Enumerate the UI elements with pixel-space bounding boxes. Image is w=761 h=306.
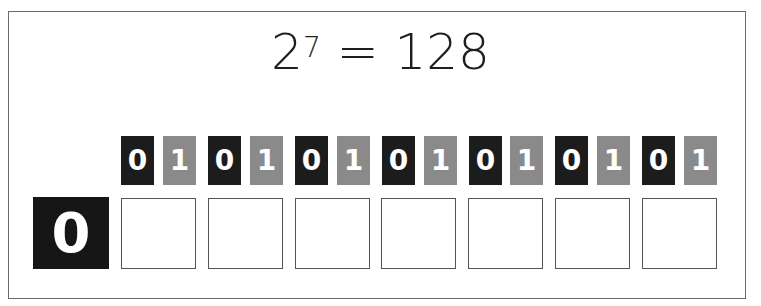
bit-one-tile[interactable]: 1 (337, 136, 370, 185)
equation-equals: = (337, 23, 379, 81)
bit-slot-7[interactable] (642, 198, 717, 269)
equation-base: 2 (271, 23, 303, 81)
bit-zero-tile[interactable]: 0 (295, 136, 328, 185)
bit-one-tile[interactable]: 1 (250, 136, 283, 185)
bit-one-tile[interactable]: 1 (510, 136, 543, 185)
bit-zero-tile[interactable]: 0 (555, 136, 588, 185)
equation-value: 128 (394, 23, 489, 81)
bit-zero-tile[interactable]: 0 (121, 136, 154, 185)
bit-slot-4[interactable] (381, 198, 456, 269)
bit-zero-tile[interactable]: 0 (642, 136, 675, 185)
bit-slot-2[interactable] (208, 198, 283, 269)
bit-one-tile[interactable]: 1 (684, 136, 717, 185)
equation-exponent: 7 (303, 31, 321, 64)
result-digit-tile: 0 (33, 197, 109, 269)
bit-zero-tile[interactable]: 0 (469, 136, 502, 185)
bit-zero-tile[interactable]: 0 (382, 136, 415, 185)
bit-slot-5[interactable] (468, 198, 543, 269)
equation-title: 27 = 128 (0, 22, 761, 82)
bit-slot-6[interactable] (555, 198, 630, 269)
bit-zero-tile[interactable]: 0 (208, 136, 241, 185)
bit-slot-1[interactable] (121, 198, 196, 269)
bit-one-tile[interactable]: 1 (424, 136, 457, 185)
bit-slot-3[interactable] (295, 198, 370, 269)
bit-one-tile[interactable]: 1 (597, 136, 630, 185)
bit-one-tile[interactable]: 1 (163, 136, 196, 185)
